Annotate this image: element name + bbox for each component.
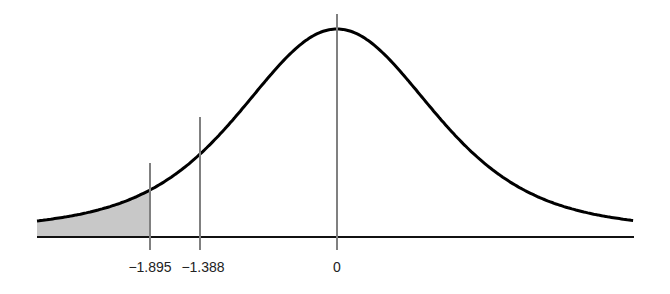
tick-label-neg1388: −1.388: [181, 259, 224, 275]
tick-label-zero: 0: [333, 259, 341, 275]
distribution-chart: −1.895 −1.388 0: [0, 0, 670, 294]
tick-label-neg1895: −1.895: [128, 259, 171, 275]
distribution-curve: [37, 29, 633, 221]
